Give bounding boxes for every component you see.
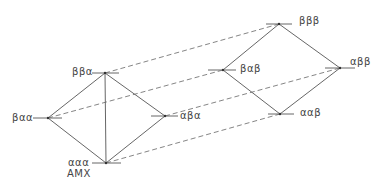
label-abb: αββ — [350, 57, 371, 67]
edge-bba-baa — [48, 73, 105, 118]
energy-diagram-canvas — [0, 0, 377, 185]
dashed-connections — [48, 24, 340, 163]
dashed-aaa-aab — [106, 114, 280, 163]
edge-aba-aaa — [106, 116, 165, 163]
edge-bba-aaa — [105, 73, 106, 163]
label-baa: βαα — [12, 113, 33, 123]
label-aba: αβα — [180, 111, 201, 121]
label-bbb: βββ — [299, 16, 320, 26]
label-aaa: ααα — [68, 158, 89, 168]
label-bba: ββα — [72, 67, 93, 77]
left-diamond — [33, 73, 178, 163]
label-amx: AMX — [67, 169, 91, 179]
edge-bbb-abb — [279, 24, 340, 68]
label-aab: ααβ — [300, 108, 321, 118]
label-bab: βαβ — [240, 64, 261, 74]
node-dots — [47, 23, 341, 164]
